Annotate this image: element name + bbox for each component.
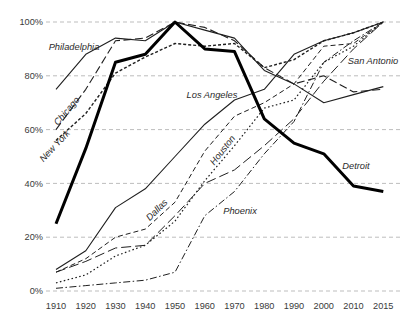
y-tick-60%: 60% bbox=[25, 125, 43, 135]
x-tick-2010: 2010 bbox=[343, 301, 363, 311]
y-tick-80%: 80% bbox=[25, 71, 43, 81]
series-label-philadelphia: Philadelphia bbox=[49, 42, 100, 52]
x-tick-1950: 1950 bbox=[165, 301, 185, 311]
y-tick-20%: 20% bbox=[25, 232, 43, 242]
chart-figure: 0%20%40%60%80%100%1910192019301940195019… bbox=[0, 0, 414, 329]
x-tick-1970: 1970 bbox=[224, 301, 244, 311]
series-label-chicago: Chicago bbox=[52, 95, 82, 128]
x-tick-2015: 2015 bbox=[373, 301, 393, 311]
x-tick-1920: 1920 bbox=[76, 301, 96, 311]
x-tick-1930: 1930 bbox=[105, 301, 125, 311]
series-label-phoenix: Phoenix bbox=[223, 206, 257, 216]
series-line-detroit bbox=[56, 22, 383, 224]
x-tick-1990: 1990 bbox=[284, 301, 304, 311]
y-tick-100%: 100% bbox=[20, 17, 44, 27]
x-tick-1910: 1910 bbox=[46, 301, 66, 311]
population-percent-of-peak-chart: 0%20%40%60%80%100%1910192019301940195019… bbox=[0, 0, 414, 329]
series-label-houston: Houston bbox=[208, 133, 237, 166]
x-tick-1940: 1940 bbox=[135, 301, 155, 311]
x-tick-1960: 1960 bbox=[195, 301, 215, 311]
x-tick-1980: 1980 bbox=[254, 301, 274, 311]
series-label-san-antonio: San Antonio bbox=[348, 56, 398, 66]
series-label-los-angeles: Los Angeles bbox=[187, 90, 238, 100]
y-tick-40%: 40% bbox=[25, 179, 43, 189]
x-tick-2000: 2000 bbox=[314, 301, 334, 311]
series-label-detroit: Detroit bbox=[342, 161, 370, 171]
y-tick-0%: 0% bbox=[30, 286, 43, 296]
